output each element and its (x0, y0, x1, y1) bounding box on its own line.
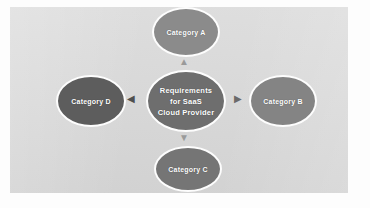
connector-arrow-center-to-category-a: ▲ (179, 57, 189, 67)
node-category-d[interactable]: Category D (56, 75, 126, 127)
connector-arrow-center-to-category-d: ◀ (127, 94, 135, 104)
connector-arrow-center-to-category-b: ▶ (234, 94, 242, 104)
node-center-label: Requirements for SaaS Cloud Provider (158, 85, 215, 118)
node-category-d-label: Category D (71, 98, 110, 105)
node-category-b[interactable]: Category B (249, 75, 317, 127)
connector-arrow-center-to-category-c: ▼ (179, 133, 189, 143)
node-center-label-line-1: Requirements (158, 85, 215, 96)
node-category-c-label: Category C (168, 166, 207, 173)
node-category-a-label: Category A (166, 29, 205, 36)
node-category-b-label: Category B (263, 98, 302, 105)
node-category-a[interactable]: Category A (152, 7, 220, 57)
node-center-label-line-3: Cloud Provider (158, 107, 215, 118)
node-center-label-line-2: for SaaS (158, 96, 215, 107)
diagram-screenshot: ▲ ▶ ▼ ◀ Category A Category B Category C… (0, 0, 370, 208)
node-category-c[interactable]: Category C (154, 146, 222, 192)
node-center-requirements[interactable]: Requirements for SaaS Cloud Provider (146, 70, 226, 132)
